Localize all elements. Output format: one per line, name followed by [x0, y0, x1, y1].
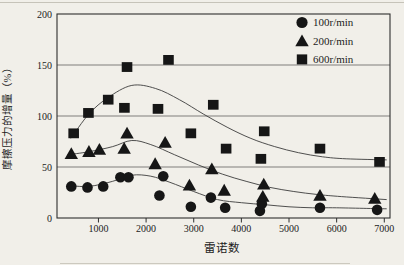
data-point-600r-min — [315, 144, 326, 154]
data-point-600r-min — [374, 157, 385, 167]
data-point-100r-min — [315, 203, 326, 214]
legend-label-200rmin: 200r/min — [313, 35, 354, 47]
legend-circle-icon — [296, 17, 307, 28]
legend: 100r/min 200r/min 600r/min — [295, 16, 354, 65]
x-tick-label-2000: 2000 — [136, 223, 156, 234]
data-points-layer — [65, 55, 385, 216]
scatter-chart: 0501001502001000200030004000500060007000… — [0, 0, 404, 265]
data-point-200r-min — [256, 190, 269, 202]
data-point-600r-min — [186, 128, 197, 138]
data-point-600r-min — [83, 108, 94, 118]
data-point-600r-min — [208, 100, 219, 110]
x-tick-label-6000: 6000 — [327, 223, 347, 234]
data-point-600r-min — [163, 55, 174, 65]
data-point-600r-min — [119, 103, 130, 113]
legend-triangle-icon — [295, 34, 308, 46]
data-point-600r-min — [256, 154, 267, 164]
data-point-100r-min — [98, 181, 109, 192]
data-point-600r-min — [122, 62, 133, 72]
y-tick-label-0: 0 — [47, 213, 52, 224]
y-axis-label: 摩擦压力的增量（%） — [1, 62, 13, 171]
legend-square-icon — [297, 54, 307, 64]
y-tick-label-50: 50 — [42, 162, 52, 173]
data-point-200r-min — [148, 157, 161, 169]
legend-label-600rmin: 600r/min — [313, 53, 354, 65]
data-point-100r-min — [123, 172, 134, 183]
data-point-100r-min — [206, 192, 217, 203]
x-tick-label-1000: 1000 — [88, 223, 108, 234]
data-point-100r-min — [66, 181, 77, 192]
data-point-200r-min — [183, 179, 196, 191]
data-point-200r-min — [368, 192, 381, 204]
x-tick-label-7000: 7000 — [374, 223, 394, 234]
y-tick-label-150: 150 — [37, 60, 52, 71]
legend-label-100rmin: 100r/min — [313, 16, 354, 28]
data-point-100r-min — [220, 203, 231, 214]
data-point-100r-min — [186, 201, 197, 212]
x-tick-label-4000: 4000 — [231, 223, 251, 234]
data-point-200r-min — [257, 178, 270, 190]
y-tick-label-100: 100 — [37, 111, 52, 122]
data-point-100r-min — [158, 171, 169, 182]
data-point-600r-min — [259, 126, 270, 136]
data-point-600r-min — [68, 128, 79, 138]
data-point-200r-min — [65, 147, 78, 159]
x-tick-label-5000: 5000 — [279, 223, 299, 234]
data-point-100r-min — [372, 205, 383, 216]
data-point-600r-min — [103, 95, 114, 105]
data-point-200r-min — [218, 184, 231, 196]
y-tick-label-200: 200 — [37, 9, 52, 20]
x-tick-label-3000: 3000 — [184, 223, 204, 234]
chart-figure: 0501001502001000200030004000500060007000… — [0, 0, 404, 265]
data-point-200r-min — [158, 136, 171, 148]
x-axis-label: 雷诺数 — [204, 241, 240, 254]
data-point-600r-min — [221, 144, 232, 154]
data-point-200r-min — [120, 127, 133, 139]
data-point-100r-min — [154, 190, 165, 201]
data-point-600r-min — [153, 104, 164, 114]
data-point-100r-min — [82, 182, 93, 193]
